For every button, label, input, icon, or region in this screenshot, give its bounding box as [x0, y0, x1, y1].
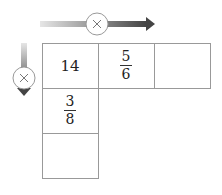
arrows-layer — [0, 0, 222, 195]
times-circle-icon — [86, 13, 108, 35]
fraction: 3 8 — [64, 94, 76, 127]
cell-r2c0[interactable] — [42, 133, 98, 178]
numerator: 3 — [66, 94, 75, 109]
denominator: 8 — [66, 112, 75, 127]
cell-r0c2[interactable] — [154, 43, 210, 88]
cell-r0c1: 5 6 — [98, 43, 154, 88]
numerator: 5 — [122, 49, 131, 64]
denominator: 6 — [122, 67, 131, 82]
cell-r1c0: 3 8 — [42, 88, 98, 133]
times-circle-icon — [13, 67, 35, 89]
cell-value: 14 — [60, 57, 79, 75]
fraction: 5 6 — [120, 49, 132, 82]
cell-r0c0: 14 — [42, 43, 98, 88]
